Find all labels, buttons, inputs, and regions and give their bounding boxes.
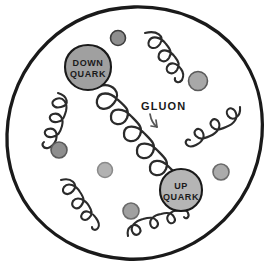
up-quark-label-line1: UP xyxy=(174,181,188,191)
sea-particle-top xyxy=(111,31,126,46)
sea-particle-upper-right xyxy=(189,72,208,91)
up-quark: UP QUARK xyxy=(160,169,202,211)
sea-particle-right xyxy=(213,164,229,180)
up-quark-label-line2: QUARK xyxy=(163,192,199,202)
sea-particle-left xyxy=(51,142,67,158)
proton-diagram: DOWN QUARK UP QUARK GLUON xyxy=(0,0,269,267)
proton-diagram-canvas: DOWN QUARK UP QUARK GLUON xyxy=(0,0,269,267)
sea-particle-center xyxy=(98,163,113,178)
down-quark-label-line2: QUARK xyxy=(70,69,106,79)
down-quark-label-line1: DOWN xyxy=(73,58,104,68)
sea-particle-bottom xyxy=(123,203,139,219)
gluon-label: GLUON xyxy=(141,100,186,112)
down-quark: DOWN QUARK xyxy=(65,45,111,90)
